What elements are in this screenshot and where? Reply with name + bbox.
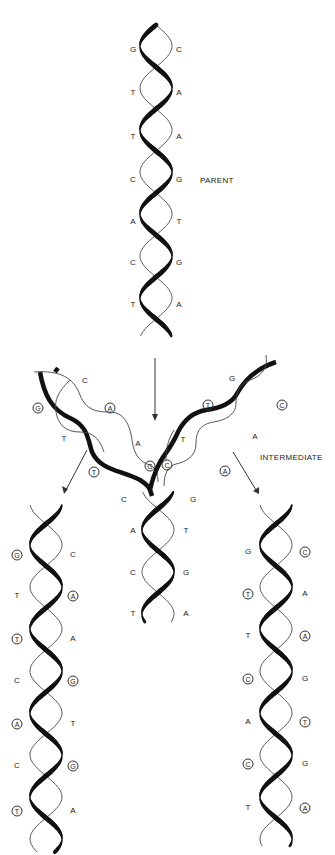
left-daughter-base-left: A [12,719,23,730]
left-arm-base-left: T [62,434,67,444]
parent-base-right: C [176,45,182,55]
parent-base-left: C [130,175,136,185]
left-arm-base-right: A [135,439,140,449]
stem-base-left: C [130,568,136,578]
parent-base-right: G [176,258,182,268]
right-daughter-base-left: G [245,547,251,557]
right-arm-base-right: C [277,400,288,411]
down-arrow-head [152,414,158,421]
left-daughter-base-left: T [12,806,23,817]
left-daughter-base-left: G [12,550,23,561]
stem-base-right: A [183,609,188,619]
left-arrow [66,450,87,490]
intermediate-stem-helix [142,492,174,622]
stem-base-right: T [184,526,189,536]
right-arm-base-left: C [162,460,173,471]
right-daughter-base-right: G [302,674,308,684]
right-arm-base-left: T [203,400,214,411]
right-arrow [233,452,256,490]
dna-replication-diagram [0,0,335,855]
right-daughter-base-left: T [246,631,251,641]
right-daughter-base-right: A [300,631,311,642]
right-arm-base-top: G [229,374,235,384]
right-daughter-base-left: C [243,674,254,685]
right-daughter-base-left: T [243,589,254,600]
left-daughter-base-right: C [70,550,76,560]
stem-base-left: T [131,609,136,619]
stem-base-left: A [130,526,135,536]
intermediate-label: INTERMEDIATE [260,453,323,462]
parent-base-left: T [131,132,136,142]
right-arm-base-right: A [252,432,257,442]
left-arm-base-left: T [89,467,100,478]
parent-base-left: G [130,45,136,55]
left-daughter-base-left: T [15,591,20,601]
right-daughter-base-right: A [300,803,311,814]
right-arrow-head [253,487,259,494]
right-arm-base-left: T [181,435,186,445]
left-arm-base-top: C [82,376,88,386]
left-daughter-base-right: A [70,806,75,816]
right-daughter-base-left: C [243,759,254,770]
left-daughter-base-right: T [71,719,76,729]
left-daughter-base-left: C [14,761,20,771]
stem-base-right: G [183,568,189,578]
parent-base-left: T [131,88,136,98]
left-daughter-base-right: A [70,634,75,644]
left-daughter-base-left: C [14,676,20,686]
right-arm-base-right: A [220,466,231,477]
parent-helix [140,25,172,336]
right-daughter-helix [260,505,292,846]
parent-base-left: C [130,258,136,268]
left-arm-base-right: G [145,461,156,472]
left-arm-base-right: A [105,403,116,414]
parent-base-right: A [176,132,181,142]
stem-base-right: G [190,495,196,505]
left-arm-base-left: G [33,403,44,414]
right-daughter-base-right: A [302,589,307,599]
parent-base-right: A [176,300,181,310]
left-daughter-base-right: G [68,676,79,687]
left-daughter-base-right: G [68,761,79,772]
parent-base-right: A [176,88,181,98]
right-daughter-base-right: T [300,717,311,728]
left-daughter-base-left: T [12,634,23,645]
parent-base-right: G [176,175,182,185]
parent-base-right: T [177,217,182,227]
right-daughter-base-right: C [300,547,311,558]
parent-base-left: A [130,217,135,227]
left-daughter-helix [30,505,62,852]
parent-base-left: T [131,300,136,310]
right-daughter-base-left: T [246,803,251,813]
left-daughter-base-right: A [68,591,79,602]
right-daughter-base-left: A [245,717,250,727]
right-daughter-base-right: G [302,759,308,769]
parent-label: PARENT [200,176,234,185]
stem-base-left: C [121,495,127,505]
